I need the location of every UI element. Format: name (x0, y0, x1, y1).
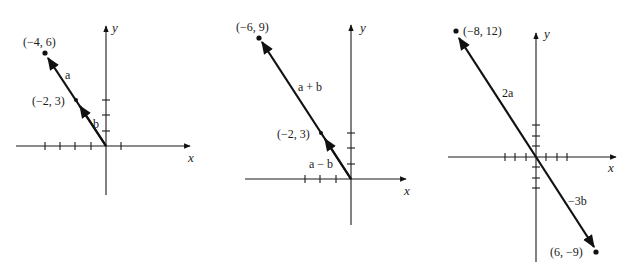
point-label: (6, −9) (550, 245, 583, 259)
point-label: (−6, 9) (236, 20, 269, 34)
vector-label: a + b (298, 80, 322, 94)
point-dot (74, 98, 78, 102)
diagram-2: y x (−6, 9) (−2, 3) a + b a − b (236, 20, 410, 225)
y-axis-label: y (542, 26, 550, 41)
y-axis-label: y (110, 20, 118, 35)
point-label: (−8, 12) (463, 24, 502, 38)
point-dot (319, 131, 323, 135)
point-dot (593, 249, 598, 254)
vector-label: a − b (309, 157, 333, 171)
point-label: (−4, 6) (23, 35, 56, 49)
point-dot (42, 50, 47, 55)
y-axis-label: y (358, 20, 366, 35)
diagram-1: y x (−4, 6) (−2, 3) a b (16, 20, 194, 195)
x-axis-label: x (187, 150, 194, 165)
vector-label: −3b (568, 194, 587, 208)
vector-2a (459, 38, 536, 157)
vector-label: 2a (502, 86, 514, 100)
point-label: (−2, 3) (32, 94, 65, 108)
x-axis-label: x (403, 183, 410, 198)
point-dot (256, 35, 261, 40)
vector-label: a (65, 68, 71, 82)
x-axis-label: x (607, 160, 614, 175)
vector-label: b (93, 117, 99, 131)
vector-diagrams: y x (−4, 6) (−2, 3) a b y x (0, 0, 627, 271)
diagram-3: y x (−8, 12) (6, −9) 2a −3b (448, 24, 616, 262)
point-dot (453, 28, 458, 33)
point-label: (−2, 3) (277, 127, 310, 141)
